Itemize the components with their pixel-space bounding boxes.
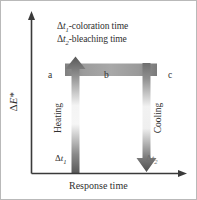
dt1-sub: 1 [63, 158, 66, 165]
delta-t1-annotation: Δt1 [55, 154, 67, 166]
y-axis-delta: Δ [7, 104, 19, 111]
y-axis-label: ΔE* [8, 80, 20, 124]
x-axis-arrowhead [178, 170, 187, 177]
cooling-label: Cooling [154, 93, 164, 143]
y-axis-star: * [7, 92, 19, 98]
heating-label: Heating [54, 93, 64, 143]
legend-text-block: Δt1-coloration time Δt2-bleaching time [57, 22, 128, 48]
process-band [65, 57, 157, 174]
region-label-c: c [168, 71, 172, 81]
delta-t2-annotation: Δt2 [146, 154, 158, 166]
legend-line-coloration: Δt1-coloration time [57, 22, 128, 34]
x-axis-label: Response time [69, 181, 128, 192]
y-axis-arrowhead [28, 11, 35, 20]
region-label-a: a [48, 71, 52, 81]
y-axis-symbol: E [7, 98, 19, 105]
legend-line-bleaching: Δt2-bleaching time [57, 35, 128, 47]
thermochromic-response-figure: Δt1-coloration time Δt2-bleaching time Δ… [0, 0, 197, 200]
region-label-b: b [104, 71, 109, 81]
legend-desc-1: -coloration time [69, 21, 128, 31]
dt2-sub: 2 [154, 158, 157, 165]
legend-desc-2: -bleaching time [69, 34, 127, 44]
